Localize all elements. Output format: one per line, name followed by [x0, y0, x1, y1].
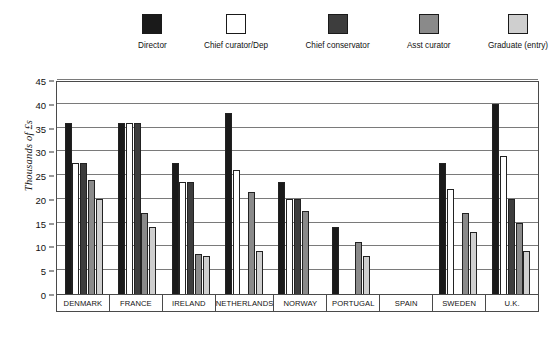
y-axis-tick-label: 25	[35, 171, 46, 182]
bar	[233, 170, 240, 294]
x-axis-tick-label: SPAIN	[380, 295, 433, 311]
bar	[72, 163, 79, 294]
y-axis-tick-mark	[49, 223, 54, 224]
y-axis-tick-label: 30	[35, 147, 46, 158]
plot-area	[56, 81, 539, 295]
bar	[516, 223, 523, 294]
y-axis: 051015202530354045	[0, 81, 54, 295]
bar-group	[271, 82, 324, 294]
y-axis-tick-label: 15	[35, 218, 46, 229]
y-axis-tick-mark	[49, 81, 54, 82]
bar	[256, 251, 263, 294]
y-axis-tick-label: 45	[35, 76, 46, 87]
bar	[508, 199, 515, 294]
bar-group	[431, 82, 484, 294]
bar	[302, 211, 309, 294]
bar	[225, 113, 232, 294]
y-axis-tick-mark	[49, 247, 54, 248]
bar-group	[324, 82, 377, 294]
y-axis-tick-mark	[49, 104, 54, 105]
bar	[523, 251, 530, 294]
bar	[126, 123, 133, 294]
chart-legend: DirectorChief curator/DepChief conservat…	[138, 14, 548, 62]
y-axis-tick-label: 10	[35, 242, 46, 253]
bar	[447, 189, 454, 294]
x-axis-tick-label: U.K.	[486, 295, 538, 311]
legend-entry: Asst curator	[407, 14, 451, 50]
legend-label: Chief conservator	[305, 41, 369, 50]
bar-chart: DirectorChief curator/DepChief conservat…	[0, 0, 556, 345]
bar	[500, 156, 507, 294]
x-axis: DENMARKFRANCEIRELANDNETHERLANDSNORWAYPOR…	[56, 295, 539, 312]
y-axis-tick-label: 40	[35, 99, 46, 110]
y-axis-tick-mark	[49, 271, 54, 272]
bar	[187, 182, 194, 294]
x-axis-tick-label: DENMARK	[57, 295, 110, 311]
x-axis-tick-label: FRANCE	[110, 295, 163, 311]
y-axis-tick-mark	[49, 295, 54, 296]
bar	[363, 256, 370, 294]
bar	[462, 213, 469, 294]
legend-swatch-icon	[142, 14, 162, 34]
bar	[203, 256, 210, 294]
legend-label: Asst curator	[407, 41, 451, 50]
bar-group	[485, 82, 538, 294]
legend-entry: Chief curator/Dep	[204, 14, 268, 50]
y-axis-tick-mark	[49, 176, 54, 177]
legend-swatch-icon	[419, 14, 439, 34]
gridline	[57, 79, 538, 80]
y-axis-tick-mark	[49, 199, 54, 200]
y-axis-tick-label: 20	[35, 194, 46, 205]
bar	[332, 227, 339, 294]
y-axis-tick-mark	[49, 128, 54, 129]
y-axis-tick-label: 0	[41, 290, 46, 301]
bar	[118, 123, 125, 294]
legend-swatch-icon	[328, 14, 348, 34]
bar	[80, 163, 87, 294]
legend-entry: Graduate (entry)	[488, 14, 548, 50]
x-axis-tick-label: PORTUGAL	[327, 295, 380, 311]
y-axis-tick-mark	[49, 152, 54, 153]
legend-swatch-icon	[508, 14, 528, 34]
bar	[172, 163, 179, 294]
x-axis-tick-label: IRELAND	[163, 295, 216, 311]
bar	[179, 182, 186, 294]
legend-label: Chief curator/Dep	[204, 41, 268, 50]
bar	[248, 192, 255, 294]
bars-layer	[57, 82, 538, 294]
bar-group	[110, 82, 163, 294]
y-axis-tick-label: 35	[35, 123, 46, 134]
bar	[96, 199, 103, 294]
bar-group	[57, 82, 110, 294]
x-axis-tick-label: NORWAY	[274, 295, 327, 311]
legend-swatch-icon	[226, 14, 246, 34]
bar	[470, 232, 477, 294]
legend-label: Director	[138, 41, 167, 50]
bar	[355, 242, 362, 294]
bar-group	[378, 82, 431, 294]
bar	[439, 163, 446, 294]
bar	[141, 213, 148, 294]
bar	[278, 182, 285, 294]
bar-group	[217, 82, 270, 294]
bar	[88, 180, 95, 294]
y-axis-tick-label: 5	[41, 266, 46, 277]
legend-entry: Chief conservator	[305, 14, 369, 50]
bar	[294, 199, 301, 294]
bar-group	[164, 82, 217, 294]
bar	[65, 123, 72, 294]
bar	[195, 254, 202, 294]
legend-label: Graduate (entry)	[488, 41, 548, 50]
x-axis-tick-label: NETHERLANDS	[216, 295, 275, 311]
bar	[286, 199, 293, 294]
legend-entry: Director	[138, 14, 167, 50]
x-axis-tick-label: SWEDEN	[433, 295, 486, 311]
bar	[134, 123, 141, 294]
bar	[149, 227, 156, 294]
bar	[492, 104, 499, 294]
